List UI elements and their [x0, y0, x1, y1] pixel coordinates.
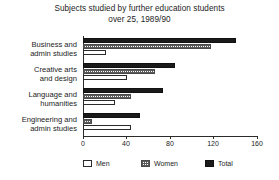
legend-item-women: Women [141, 160, 178, 167]
chart-title: Subjects studied by further education st… [0, 4, 279, 25]
category-label-business-line-2: admin studies [30, 49, 77, 58]
x-tick-label-40: 40 [122, 140, 130, 147]
category-label-creative-arts-line-2: and design [34, 74, 77, 83]
legend-swatch-men-icon [83, 160, 92, 167]
legend-item-total: Total [205, 160, 233, 167]
x-tick-160 [257, 136, 258, 139]
plot-area: 0 40 80 120 160 [83, 36, 257, 136]
chart-title-line-1: Subjects studied by further education st… [54, 4, 224, 13]
legend-item-men: Men [83, 160, 110, 167]
legend-swatch-women-icon [141, 160, 150, 167]
legend-label-total: Total [218, 160, 233, 167]
legend-swatch-total-icon [205, 160, 214, 167]
category-label-language: Language and humanities [28, 90, 77, 108]
bar-women-engineering [83, 119, 92, 124]
x-tick-label-120: 120 [207, 140, 219, 147]
bar-total-creative-arts [83, 63, 175, 68]
x-tick-label-160: 160 [251, 140, 263, 147]
bar-men-business [83, 50, 106, 55]
x-tick-label-0: 0 [81, 140, 85, 147]
bar-total-engineering [83, 113, 140, 118]
x-tick-80 [170, 136, 171, 139]
bar-total-business [83, 38, 236, 43]
category-label-engineering-line-1: Engineering and [22, 115, 77, 124]
category-label-engineering-line-2: admin studies [22, 124, 77, 133]
x-tick-120 [213, 136, 214, 139]
category-axis-labels: Business and admin studies Creative arts… [0, 36, 80, 136]
bar-men-engineering [83, 125, 131, 130]
category-label-engineering: Engineering and admin studies [22, 115, 77, 133]
x-tick-label-80: 80 [166, 140, 174, 147]
legend-label-men: Men [96, 160, 110, 167]
x-tick-0 [83, 136, 84, 139]
category-label-language-line-2: humanities [28, 99, 77, 108]
bar-men-language [83, 100, 115, 105]
bar-men-creative-arts [83, 75, 127, 80]
chart-title-line-2: over 25, 1989/90 [0, 15, 279, 26]
bar-women-language [83, 94, 131, 99]
bar-total-language [83, 88, 163, 93]
bar-women-business [83, 44, 211, 49]
bar-women-creative-arts [83, 69, 155, 74]
chart-container: Subjects studied by further education st… [0, 0, 279, 180]
category-label-creative-arts-line-1: Creative arts [34, 65, 77, 74]
legend-label-women: Women [154, 160, 178, 167]
x-tick-40 [126, 136, 127, 139]
category-label-business-line-1: Business and [30, 40, 77, 49]
category-label-language-line-1: Language and [28, 90, 77, 99]
category-label-business: Business and admin studies [30, 40, 77, 58]
chart-legend: Men Women Total [83, 160, 257, 174]
category-label-creative-arts: Creative arts and design [34, 65, 77, 83]
